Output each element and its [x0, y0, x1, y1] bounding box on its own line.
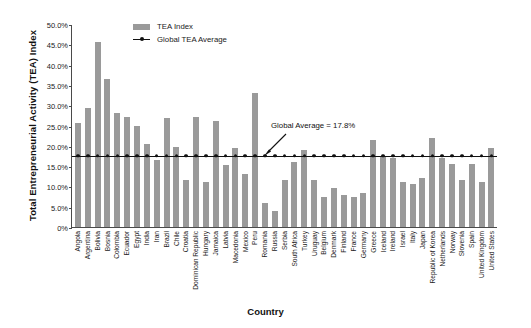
- legend-line-marker-icon: [133, 37, 150, 43]
- average-marker-dot: [490, 154, 494, 158]
- bar: [331, 188, 337, 227]
- legend-item-global-average: Global TEA Average: [133, 33, 227, 46]
- bar: [301, 150, 307, 227]
- bar: [321, 197, 327, 227]
- x-label-slot: Netherlands: [437, 229, 447, 299]
- global-average-annotation: Global Average = 17.8%: [271, 121, 355, 130]
- x-label-slot: Slovenia: [457, 229, 467, 299]
- x-axis-tick-label: Brazil: [162, 231, 169, 248]
- x-axis-tick-label: Macedonia: [231, 231, 238, 263]
- x-axis-tick-label: Japan: [419, 231, 426, 249]
- x-label-slot: Republic of Korea: [427, 229, 437, 299]
- x-label-slot: Finland: [338, 229, 348, 299]
- average-marker-dot: [480, 154, 484, 158]
- bar: [232, 148, 238, 227]
- average-marker-dot: [421, 154, 425, 158]
- average-marker-dot: [460, 154, 464, 158]
- x-label-slot: Israel: [397, 229, 407, 299]
- average-marker-dot: [342, 154, 346, 158]
- y-axis-tick-mark: [69, 147, 73, 148]
- bar-slot: [221, 25, 231, 227]
- x-label-slot: Russia: [269, 229, 279, 299]
- x-label-slot: Italy: [407, 229, 417, 299]
- average-marker-dot: [470, 154, 474, 158]
- y-axis-tick-label: 30.0%: [47, 102, 68, 111]
- x-label-slot: Brazil: [161, 229, 171, 299]
- x-axis-tick-label: France: [349, 231, 356, 252]
- average-marker-dot: [431, 154, 435, 158]
- x-axis-tick-label: India: [142, 231, 149, 245]
- x-axis-tick-label: United States: [488, 231, 495, 271]
- x-axis-tick-label: Ireland: [389, 231, 396, 251]
- bar: [193, 117, 199, 227]
- bar: [183, 180, 189, 227]
- x-label-slot: Colombia: [111, 229, 121, 299]
- x-axis-tick-label: Angola: [73, 231, 80, 252]
- bar: [75, 123, 81, 227]
- bar: [390, 158, 396, 227]
- x-label-slot: Germany: [358, 229, 368, 299]
- y-axis-tick-mark: [69, 45, 73, 46]
- x-label-slot: France: [348, 229, 358, 299]
- average-marker-dot: [332, 154, 336, 158]
- average-marker-dot: [303, 154, 307, 158]
- x-axis-tick-label: Serbia: [280, 231, 287, 250]
- x-axis-tick-label: Latvia: [221, 231, 228, 249]
- x-axis-tick-labels: AngolaArgentinaBoliviaBosniaColombiaEcua…: [71, 229, 497, 299]
- x-label-slot: Egypt: [131, 229, 141, 299]
- y-axis-tick-mark: [69, 25, 73, 26]
- x-axis-tick-label: Uruguay: [310, 231, 317, 256]
- x-axis-tick-label: Bolivia: [93, 231, 100, 250]
- y-axis-tick-labels: 50.0%45.0%40.0%35.0%30.0%25.0%20.0%15.0%…: [22, 0, 68, 328]
- bar: [242, 174, 248, 227]
- bar-slot: [240, 25, 250, 227]
- x-label-slot: Belgium: [318, 229, 328, 299]
- bar-slot: [191, 25, 201, 227]
- average-marker-dot: [401, 154, 405, 158]
- chart-legend: TEA Index Global TEA Average: [133, 20, 227, 46]
- y-axis-tick-label: 35.0%: [47, 81, 68, 90]
- bar-slot: [142, 25, 152, 227]
- legend-item-tea-index: TEA Index: [133, 20, 227, 33]
- average-marker-dot: [184, 154, 188, 158]
- bar-slot: [378, 25, 388, 227]
- average-marker-dot: [234, 154, 238, 158]
- bar-slot: [73, 25, 83, 227]
- bar-slot: [388, 25, 398, 227]
- x-label-slot: Croatia: [180, 229, 190, 299]
- bar: [449, 164, 455, 227]
- bar: [95, 42, 101, 227]
- bar: [164, 118, 170, 227]
- average-marker-dot: [371, 154, 375, 158]
- average-marker-dot: [391, 154, 395, 158]
- x-label-slot: United States: [486, 229, 496, 299]
- bar: [360, 193, 366, 228]
- bar-slot: [418, 25, 428, 227]
- y-axis-tick-label: 5.0%: [51, 203, 68, 212]
- average-marker-dot: [145, 154, 149, 158]
- bar: [469, 164, 475, 227]
- x-label-slot: Macedonia: [230, 229, 240, 299]
- x-axis-tick-label: Finland: [340, 231, 347, 253]
- x-axis-tick-label: Jamaica: [211, 231, 218, 256]
- bar: [154, 160, 160, 227]
- x-label-slot: Iran: [151, 229, 161, 299]
- bar: [488, 148, 494, 227]
- average-marker-dot: [214, 154, 218, 158]
- x-axis-tick-label: Netherlands: [438, 231, 445, 267]
- bar-slot: [181, 25, 191, 227]
- bar-slot: [467, 25, 477, 227]
- x-axis-tick-label: Argentina: [83, 231, 90, 259]
- bar-slot: [457, 25, 467, 227]
- bar-slot: [437, 25, 447, 227]
- x-label-slot: United Kingdom: [476, 229, 486, 299]
- x-axis-tick-label: Egypt: [133, 231, 140, 248]
- x-label-slot: Chile: [171, 229, 181, 299]
- x-axis-tick-label: Germany: [359, 231, 366, 258]
- average-marker-dot: [322, 154, 326, 158]
- bar: [223, 165, 229, 227]
- average-marker-dot: [224, 154, 228, 158]
- bar-slot: [132, 25, 142, 227]
- x-axis-tick-label: Iceland: [379, 231, 386, 252]
- x-axis-tick-label: Turkey: [300, 231, 307, 251]
